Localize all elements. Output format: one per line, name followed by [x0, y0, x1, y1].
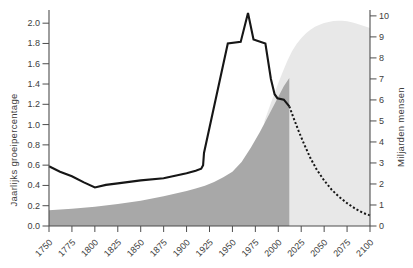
left-axis-tick-label: 0.2 — [27, 201, 40, 211]
x-axis-tick-label: 1750 — [33, 237, 54, 258]
x-axis-tick-label: 1900 — [171, 237, 192, 258]
world-population-history — [49, 78, 289, 226]
left-axis-tick-label: 2.0 — [27, 18, 40, 28]
right-axis-tick-label: 9 — [379, 32, 384, 42]
left-axis-title: Jaarlijks groeipercentage — [8, 93, 19, 206]
x-axis-tick-label: 1800 — [79, 237, 100, 258]
right-axis-tick-label: 2 — [379, 179, 384, 189]
x-axis-tick-label: 1975 — [240, 237, 261, 258]
right-axis-tick-label: 8 — [379, 53, 384, 63]
x-axis-tick-label: 2025 — [285, 237, 306, 258]
right-axis-tick-label: 0 — [379, 221, 384, 231]
x-axis-tick-label: 1775 — [56, 237, 77, 258]
left-axis-tick-label: 1.6 — [27, 59, 40, 69]
x-axis-tick-label: 2050 — [308, 237, 329, 258]
right-axis-tick-label: 6 — [379, 95, 384, 105]
left-axis-tick-label: 1.2 — [27, 99, 40, 109]
x-axis-tick-label: 1950 — [217, 237, 238, 258]
x-axis-tick-label: 2100 — [354, 237, 375, 258]
left-axis-tick-label: 1.8 — [27, 38, 40, 48]
right-axis-tick-label: 1 — [379, 200, 384, 210]
x-axis-tick-label: 1925 — [194, 237, 215, 258]
right-axis-tick-label: 10 — [379, 11, 389, 21]
left-axis-tick-label: 0.8 — [27, 140, 40, 150]
left-axis-tick-label: 1.4 — [27, 79, 40, 89]
population-growth-figure: 0.00.20.40.60.81.01.21.41.61.82.00123456… — [0, 0, 413, 268]
right-axis-tick-label: 3 — [379, 158, 384, 168]
x-axis-tick-label: 2000 — [262, 237, 283, 258]
right-axis-tick-label: 4 — [379, 137, 384, 147]
right-axis-tick-label: 5 — [379, 116, 384, 126]
x-axis-tick-label: 2075 — [331, 237, 352, 258]
right-axis-tick-label: 7 — [379, 74, 384, 84]
left-axis-tick-label: 1.0 — [27, 120, 40, 130]
x-axis-tick-label: 1875 — [148, 237, 169, 258]
chart-canvas: 0.00.20.40.60.81.01.21.41.61.82.00123456… — [0, 0, 413, 268]
left-axis-tick-label: 0.0 — [27, 221, 40, 231]
right-axis-title: Miljarden mensen — [395, 87, 406, 167]
left-axis-tick-label: 0.4 — [27, 180, 40, 190]
x-axis-tick-label: 1825 — [102, 237, 123, 258]
left-axis-tick-label: 0.6 — [27, 160, 40, 170]
x-axis-tick-label: 1850 — [125, 237, 146, 258]
